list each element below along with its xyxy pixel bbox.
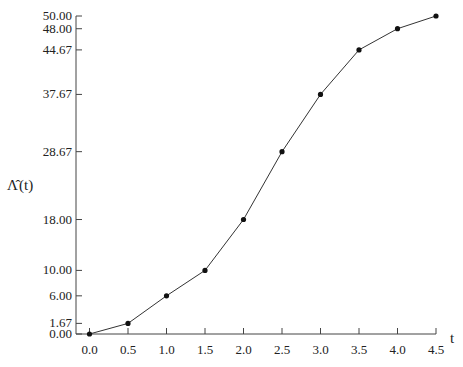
data-point bbox=[433, 13, 438, 18]
data-point bbox=[164, 293, 169, 298]
x-axis-title: t bbox=[450, 330, 455, 346]
x-tick-label: 0.0 bbox=[81, 342, 97, 357]
x-tick-label: 4.0 bbox=[389, 342, 405, 357]
x-axis: 0.00.51.01.52.02.53.03.54.04.5 bbox=[76, 328, 444, 357]
x-tick-label: 0.5 bbox=[120, 342, 136, 357]
y-tick-label: 1.67 bbox=[49, 315, 72, 330]
data-point bbox=[125, 321, 130, 326]
y-tick-label: 50.00 bbox=[43, 8, 72, 23]
data-point bbox=[279, 149, 284, 154]
x-tick-label: 2.0 bbox=[235, 342, 251, 357]
data-point bbox=[202, 268, 207, 273]
data-point bbox=[87, 331, 92, 336]
data-point bbox=[318, 92, 323, 97]
x-tick-label: 2.5 bbox=[274, 342, 290, 357]
chart-canvas: 0.001.676.0010.0018.0028.6737.6744.6748.… bbox=[0, 0, 463, 367]
data-point bbox=[356, 47, 361, 52]
y-tick-label: 18.00 bbox=[43, 212, 72, 227]
y-axis-title-argument: (t) bbox=[19, 177, 33, 194]
data-point bbox=[395, 26, 400, 31]
y-axis-title: Λ̂ (t) bbox=[7, 177, 33, 194]
y-tick-label: 10.00 bbox=[43, 262, 72, 277]
y-tick-label: 37.67 bbox=[43, 86, 73, 101]
y-axis: 0.001.676.0010.0018.0028.6737.6744.6748.… bbox=[43, 8, 82, 341]
y-tick-label: 28.67 bbox=[43, 144, 73, 159]
x-tick-label: 3.5 bbox=[351, 342, 367, 357]
data-series bbox=[87, 13, 439, 336]
data-point bbox=[241, 217, 246, 222]
x-tick-label: 1.5 bbox=[197, 342, 213, 357]
x-tick-label: 1.0 bbox=[158, 342, 174, 357]
x-tick-label: 4.5 bbox=[428, 342, 444, 357]
series-line bbox=[90, 16, 437, 334]
y-tick-label: 6.00 bbox=[49, 288, 72, 303]
x-tick-label: 3.0 bbox=[312, 342, 328, 357]
y-tick-label: 44.67 bbox=[43, 42, 73, 57]
